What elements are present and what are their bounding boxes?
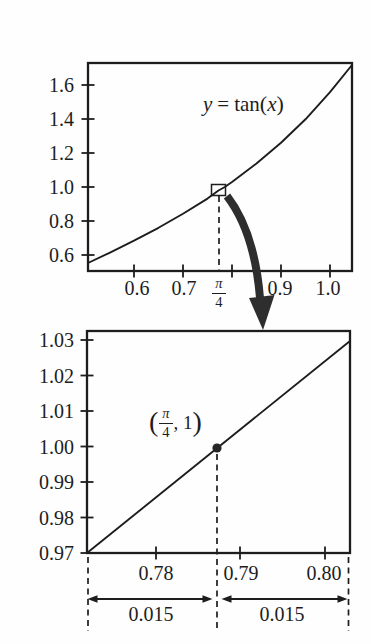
top-ytick-label-0.8: 0.8 (28, 210, 74, 232)
top-ytick-label-1.2: 1.2 (28, 142, 74, 164)
bottom-ytick-label-1.03: 1.03 (28, 329, 74, 351)
figure-tan-zoom: y=tan(x) 1.6 1.4 1.2 1.0 0.8 0.6 0.6 0.7… (0, 0, 370, 644)
bottom-ytick-label-0.97: 0.97 (28, 542, 74, 564)
bottom-ytick-label-1.01: 1.01 (28, 400, 74, 422)
point-pi4-dot (212, 443, 221, 452)
equation-close-paren: ) (276, 91, 283, 117)
top-ytick-label-1.0: 1.0 (28, 176, 74, 198)
pi-numerator: π (212, 276, 225, 294)
bottom-xtick-label-0.78: 0.78 (134, 562, 178, 584)
top-xtick-label-0.7: 0.7 (162, 277, 206, 299)
arrowhead-right-1 (203, 595, 213, 603)
four-denominator: 4 (215, 294, 222, 311)
equation-func: tan (234, 92, 260, 117)
bottom-ytick-label-0.98: 0.98 (28, 507, 74, 529)
interval-label-left: 0.015 (119, 603, 183, 625)
arrowhead-right-2 (338, 595, 348, 603)
top-xtick-label-0.6: 0.6 (115, 277, 159, 299)
zoom-arrow-head (249, 295, 275, 330)
equation-x: x (267, 92, 276, 117)
bottom-ytick-label-0.99: 0.99 (28, 471, 74, 493)
bottom-xtick-label-0.80: 0.80 (302, 562, 346, 584)
pi-over-4-fraction: π4 (212, 276, 225, 310)
top-xtick-label-pi4: π4 (205, 276, 233, 310)
point-label-four: 4 (162, 424, 169, 441)
point-label-pi: π (159, 406, 172, 424)
arrowhead-left-1 (88, 595, 98, 603)
bottom-plot-box (87, 331, 350, 553)
point-label-rest: , 1 (174, 412, 193, 434)
point-label-open-paren: ( (149, 408, 158, 436)
top-ytick-label-1.6: 1.6 (28, 74, 74, 96)
bottom-xtick-label-0.79: 0.79 (219, 562, 263, 584)
point-pi4-label: (π4, 1) (149, 406, 202, 440)
point-label-fraction: π4 (159, 406, 172, 440)
arrowhead-left-2 (222, 595, 232, 603)
bottom-chart (81, 331, 351, 631)
bottom-ytick-label-1.00: 1.00 (28, 436, 74, 458)
bottom-ytick-label-1.02: 1.02 (28, 365, 74, 387)
equation-y: y (203, 92, 212, 117)
zoom-arrow (227, 196, 275, 330)
top-xtick-label-1.0: 1.0 (306, 277, 350, 299)
point-label-close-paren: ) (193, 408, 202, 436)
top-ytick-label-1.4: 1.4 (28, 108, 74, 130)
top-ytick-label-0.6: 0.6 (28, 244, 74, 266)
interval-label-right: 0.015 (250, 603, 314, 625)
equation-equals: = (217, 92, 229, 117)
equation-label: y=tan(x) (203, 91, 284, 117)
top-xtick-label-0.9: 0.9 (258, 277, 302, 299)
